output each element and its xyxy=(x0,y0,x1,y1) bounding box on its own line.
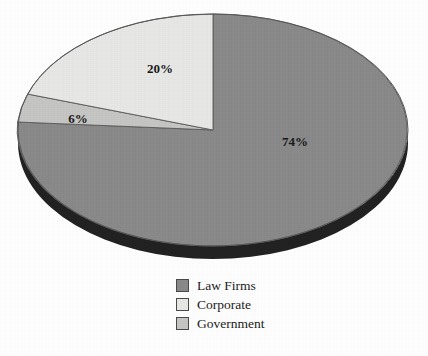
slice-label-government: 6% xyxy=(68,111,88,126)
slice-label-corporate: 20% xyxy=(147,61,173,76)
legend-swatch-law-firms xyxy=(176,279,189,292)
pie-chart: 74% 20% 6% Law Firms Corporate Governmen… xyxy=(0,0,428,356)
slice-label-law-firms: 74% xyxy=(282,134,308,149)
legend-swatch-government xyxy=(176,317,189,330)
legend-swatch-corporate xyxy=(176,298,189,311)
legend-item-law-firms[interactable]: Law Firms xyxy=(176,276,326,295)
legend-item-government[interactable]: Government xyxy=(176,314,326,333)
legend-item-corporate[interactable]: Corporate xyxy=(176,295,326,314)
legend-label-corporate: Corporate xyxy=(197,298,251,312)
legend-label-government: Government xyxy=(197,317,264,331)
pie-slices xyxy=(17,14,407,246)
legend-label-law-firms: Law Firms xyxy=(197,279,256,293)
chart-legend: Law Firms Corporate Government xyxy=(176,276,326,333)
